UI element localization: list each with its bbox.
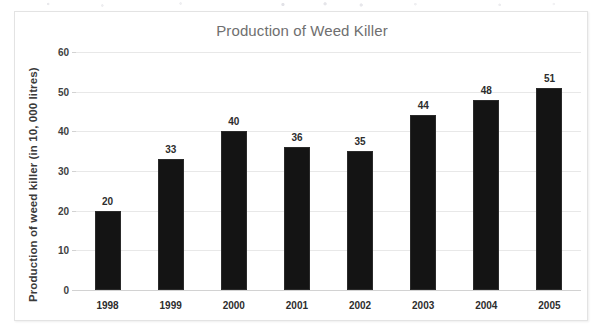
bar-group[interactable]: 402000 bbox=[202, 52, 265, 290]
bar-group[interactable]: 512005 bbox=[518, 52, 581, 290]
bar[interactable] bbox=[536, 88, 562, 290]
chart-screenshot: Production of Weed Killer Production of … bbox=[0, 0, 602, 333]
bar-value-label: 40 bbox=[228, 116, 239, 127]
scan-artifact-strip bbox=[0, 0, 602, 10]
bar-value-label: 36 bbox=[291, 132, 302, 143]
chart-title: Production of Weed Killer bbox=[15, 22, 589, 39]
y-tick-label-30: 30 bbox=[58, 166, 69, 177]
chart-frame: Production of Weed Killer Production of … bbox=[14, 11, 588, 321]
x-tick-label-2002: 2002 bbox=[349, 300, 371, 311]
bar-value-label: 51 bbox=[544, 73, 555, 84]
bar[interactable] bbox=[473, 100, 499, 290]
bar-group[interactable]: 362001 bbox=[265, 52, 328, 290]
bar-value-label: 33 bbox=[165, 144, 176, 155]
bar-value-label: 48 bbox=[481, 85, 492, 96]
y-tick-label-10: 10 bbox=[58, 245, 69, 256]
x-tick-label-2000: 2000 bbox=[223, 300, 245, 311]
y-tick-label-40: 40 bbox=[58, 126, 69, 137]
bar[interactable] bbox=[284, 147, 310, 290]
x-tick-label-2005: 2005 bbox=[538, 300, 560, 311]
bar[interactable] bbox=[347, 151, 373, 290]
y-tick-label-20: 20 bbox=[58, 205, 69, 216]
y-axis-title-text: Production of weed killer (in 10, 000 li… bbox=[27, 67, 39, 302]
bar-group[interactable]: 352002 bbox=[329, 52, 392, 290]
x-tick-label-1998: 1998 bbox=[96, 300, 118, 311]
x-tick-label-1999: 1999 bbox=[160, 300, 182, 311]
y-tick-label-50: 50 bbox=[58, 86, 69, 97]
gridline-0: 0 bbox=[76, 290, 581, 291]
plot-area: 0102030405060 20199833199940200036200135… bbox=[76, 52, 581, 290]
bar-group[interactable]: 201998 bbox=[76, 52, 139, 290]
bar-group[interactable]: 482004 bbox=[455, 52, 518, 290]
bar[interactable] bbox=[410, 115, 436, 290]
bar-group[interactable]: 331999 bbox=[139, 52, 202, 290]
y-tick-label-60: 60 bbox=[58, 47, 69, 58]
bar[interactable] bbox=[158, 159, 184, 290]
bar[interactable] bbox=[221, 131, 247, 290]
bar[interactable] bbox=[95, 211, 121, 290]
bar-series: 2019983319994020003620013520024420034820… bbox=[76, 52, 581, 290]
x-tick-label-2003: 2003 bbox=[412, 300, 434, 311]
y-tick-mark-0 bbox=[72, 290, 76, 291]
x-tick-label-2001: 2001 bbox=[286, 300, 308, 311]
x-tick-label-2004: 2004 bbox=[475, 300, 497, 311]
bar-group[interactable]: 442003 bbox=[392, 52, 455, 290]
bar-value-label: 44 bbox=[418, 100, 429, 111]
bar-value-label: 35 bbox=[355, 136, 366, 147]
y-tick-label-0: 0 bbox=[63, 285, 69, 296]
bar-value-label: 20 bbox=[102, 196, 113, 207]
